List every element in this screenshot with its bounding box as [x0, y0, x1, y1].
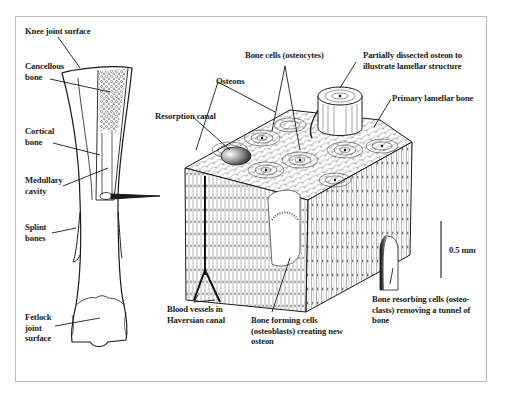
label-osteoclasts: Bone resorbing cells (osteo- clasts) rem… — [372, 294, 470, 326]
scale-bar-label: 0.5 mm — [449, 245, 476, 256]
label-knee-joint-surface: Knee joint surface — [25, 26, 91, 37]
label-blood-vessels: Blood vessels in Haversian canal — [167, 304, 225, 325]
label-cancellous-bone: Cancellous bone — [25, 61, 64, 82]
label-dissected-osteon: Partially dissected osteon to illustrate… — [363, 50, 462, 71]
label-fetlock-joint-surface: Fetlock joint surface — [25, 312, 52, 344]
label-splint-bones: Splint bones — [25, 222, 46, 243]
label-resorption-canal: Resorption canal — [155, 111, 216, 122]
cannon-bone-drawing — [62, 67, 160, 347]
label-cortical-bone: Cortical bone — [25, 126, 54, 147]
new-osteon-cavity — [268, 190, 300, 266]
label-osteoblasts: Bone forming cells (osteoblasts) creatin… — [251, 315, 343, 347]
label-medullary-cavity: Medullary cavity — [25, 175, 63, 196]
label-bone-cells: Bone cells (osteocytes) — [245, 50, 324, 61]
resorption-canal-hole — [221, 147, 251, 165]
label-primary-lamellar-bone: Primary lamellar bone — [392, 93, 473, 104]
label-osteons: Osteons — [216, 76, 244, 87]
